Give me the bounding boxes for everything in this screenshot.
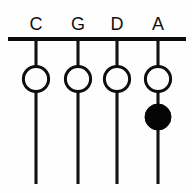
note-open-string-3[interactable]	[104, 66, 129, 91]
string-label-3: D	[111, 14, 124, 34]
string-label-4: A	[152, 14, 164, 34]
string-label-2: G	[71, 14, 85, 34]
note-open-string-1[interactable]	[23, 66, 48, 91]
string-fingering-diagram: C G D A	[0, 0, 192, 193]
diagram-canvas: C G D A	[0, 0, 192, 193]
string-label-1: C	[30, 14, 43, 34]
note-open-string-4[interactable]	[145, 66, 170, 91]
note-filled-string-4[interactable]	[145, 104, 171, 130]
note-open-string-2[interactable]	[65, 66, 90, 91]
